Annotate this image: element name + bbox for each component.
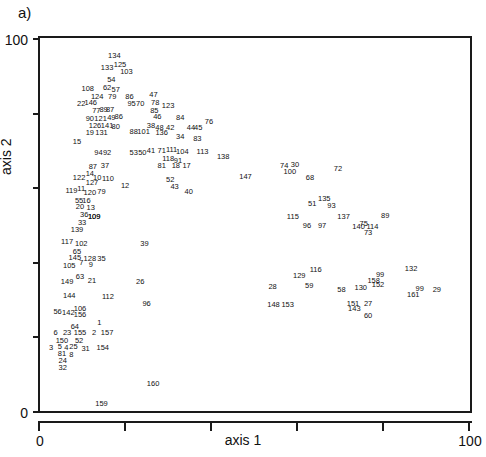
data-point-label: 81 [158,162,166,170]
x-axis-tick: 100 [468,423,470,431]
data-point-label: 149 [61,278,74,286]
data-point-label: 43 [170,183,178,191]
data-point-label: 161 [407,291,420,299]
data-point-label: 129 [293,272,306,280]
data-point-label: 93 [327,202,335,210]
data-point-label: 58 [337,286,345,294]
data-point-label: 101 [137,128,150,136]
data-point-label: 68 [306,174,314,182]
data-point-label: 133 [101,64,114,72]
y-axis-tick-label: 0 [20,405,28,421]
data-point-label: 132 [405,265,418,273]
data-point-label: 113 [197,148,209,156]
data-point-label: 79 [108,93,116,101]
data-point-label: 27 [364,300,372,308]
data-point-label: 96 [142,300,150,308]
data-point-label: 105 [63,262,76,270]
data-point-label: 19 [86,129,94,137]
x-axis-tick [124,423,126,431]
data-point-label: 147 [239,173,252,181]
data-point-label: 115 [287,213,299,221]
x-axis-line: 0100 [38,421,472,423]
data-point-label: 39 [140,240,148,248]
data-point-label: 56 [53,308,61,316]
data-point-label: 17 [182,162,190,170]
data-point-label: 37 [101,162,109,170]
y-axis-tick [33,262,40,264]
data-point-label: 139 [71,226,84,234]
data-point-label: 32 [59,364,67,372]
data-point-label: 130 [355,284,368,292]
data-point-label: 119 [65,187,77,195]
y-axis-tick: 0 [33,411,40,413]
data-point-label: 51 [308,200,316,208]
data-point-label: 63 [76,273,84,281]
data-point-label: 138 [217,153,230,161]
data-point-label: 148 [267,301,280,309]
x-axis-label: axis 1 [0,432,486,448]
data-point-label: 95 [127,100,135,108]
data-point-label: 76 [205,118,213,126]
data-point-label: 94 [94,149,102,157]
data-point-label: 62 [103,84,111,92]
data-point-label: 137 [337,213,350,221]
data-point-label: 2 [92,329,96,337]
data-point-label: 136 [155,129,168,137]
y-axis-tick [33,336,40,338]
data-point-label: 29 [433,286,441,294]
x-axis-tick [210,423,212,431]
data-point-label: 96 [303,222,311,230]
y-axis-label: axis 2 [0,138,14,175]
data-point-label: 92 [103,149,111,157]
data-point-label: 70 [136,100,144,108]
data-point-label: 159 [95,400,108,408]
data-point-label: 79 [97,188,105,196]
data-point-label: 89 [381,212,389,220]
data-point-label: 50 [138,149,146,157]
data-point-label: 80 [112,123,120,131]
data-point-label: 100 [284,168,297,176]
data-point-label: 34 [176,133,184,141]
data-point-label: 156 [74,311,87,319]
y-axis-tick: 100 [33,38,40,40]
data-point-label: 109 [88,213,101,221]
data-point-label: 84 [176,114,184,122]
data-point-label: 112 [102,293,114,301]
data-point-label: 18 [172,162,180,170]
data-point-label: 110 [102,175,114,183]
data-point-label: 152 [372,281,385,289]
data-point-label: 3 [49,344,53,352]
data-point-label: 31 [81,345,89,353]
y-axis-label-wrapper: axis 2 [14,0,15,457]
data-point-label: 53 [130,149,138,157]
data-point-label: 134 [108,52,121,60]
x-axis-tick [296,423,298,431]
data-point-label: 9 [89,261,93,269]
data-point-label: 154 [97,344,110,352]
data-point-label: 28 [268,283,276,291]
data-point-label: 86 [115,113,123,121]
data-point-label: 83 [193,135,201,143]
data-point-label: 160 [147,380,160,388]
data-point-label: 122 [73,174,86,182]
plot-frame: 0100 13413312510354625710812479864722146… [38,36,472,413]
data-point-label: 103 [120,68,133,76]
data-point-label: 60 [364,312,372,320]
data-point-label: 35 [97,255,105,263]
y-axis-tick-label: 100 [5,32,28,48]
data-point-label: 21 [88,277,96,285]
data-point-label: 104 [176,148,189,156]
data-point-label: 143 [348,305,361,313]
x-axis-tick [382,423,384,431]
data-point-label: 123 [162,102,175,110]
data-point-label: 1 [97,319,101,327]
data-point-label: 131 [95,129,108,137]
y-axis-tick [33,187,40,189]
chart-root: a) axis 2 0100 1341331251035462571081247… [0,0,486,457]
panel-label: a) [18,4,31,21]
data-point-label: 153 [281,301,294,309]
data-point-label: 72 [334,165,342,173]
data-point-label: 45 [194,124,202,132]
data-point-label: 40 [185,188,193,196]
data-point-label: 157 [101,329,114,337]
